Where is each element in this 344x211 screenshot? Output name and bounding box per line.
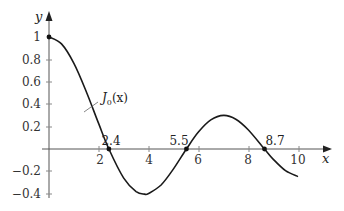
y-tick-label: 0.6 xyxy=(22,75,41,89)
x-tick-label: 10 xyxy=(290,153,305,167)
x-tick-label: 2 xyxy=(96,153,104,167)
y-tick-label: 0.8 xyxy=(22,53,41,67)
zero-annotation-2.4: 2.4 xyxy=(101,134,120,148)
x-tick-label: 4 xyxy=(145,153,153,167)
zero-annotation-8.7: 8.7 xyxy=(265,134,284,148)
y-axis-label: y xyxy=(34,9,43,24)
y-tick-label: −0.2 xyxy=(12,164,41,178)
x-tick-label: 6 xyxy=(194,153,202,167)
x-tick-label: 8 xyxy=(244,153,252,167)
y-tick-label: 0.4 xyxy=(22,97,41,111)
y-ticks: 1 0.8 0.6 0.4 0.2 −0.2 −0.4 xyxy=(12,30,52,201)
bessel-j0-curve xyxy=(49,37,298,195)
y-tick-label: 0.2 xyxy=(22,120,41,134)
curve-label: J0(x) xyxy=(99,91,128,107)
point-markers xyxy=(47,35,267,152)
y-tick-label: −0.4 xyxy=(12,187,42,201)
y-axis-arrow-icon xyxy=(46,11,53,21)
x-axis-label: x xyxy=(322,151,330,166)
zero-annotation-5.5: 5.5 xyxy=(169,134,188,148)
chart: x y 2 4 6 8 10 1 0.8 0.6 0.4 0.2 −0.2 −0… xyxy=(0,0,344,211)
point-marker xyxy=(47,35,52,40)
y-tick-label: 1 xyxy=(33,30,41,44)
